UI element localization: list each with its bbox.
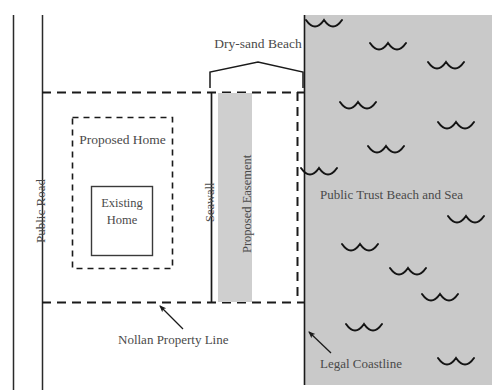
nollan-property-line-label: Nollan Property Line [118,332,228,348]
existing-home-label-line2: Home [92,213,152,228]
public-road-label: Public Road [33,179,49,243]
public-trust-beach-and-sea-label: Public Trust Beach and Sea [320,187,463,203]
proposed-home-label: Proposed Home [73,132,172,148]
dry-sand-beach-label: Dry-sand Beach [194,36,322,52]
existing-home-label-line1: Existing [92,196,152,211]
dry-sand-beach-bracket [210,62,303,88]
proposed-easement-label: Proposed Easement [240,155,255,253]
nollan-property-line-arrow [160,306,183,329]
diagram-canvas: Public Road Proposed Home Existing Home … [0,0,492,392]
legal-coastline-label: Legal Coastline [320,356,402,372]
seawall-label: Seawall [203,182,218,222]
